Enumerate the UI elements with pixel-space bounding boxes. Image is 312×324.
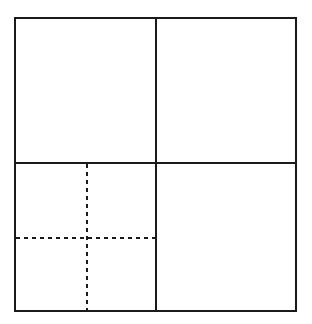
diagram-canvas <box>0 0 312 324</box>
solid-divider-lines <box>15 18 296 311</box>
dashed-divider-lines <box>16 164 156 311</box>
quadrant-diagram <box>0 0 312 324</box>
